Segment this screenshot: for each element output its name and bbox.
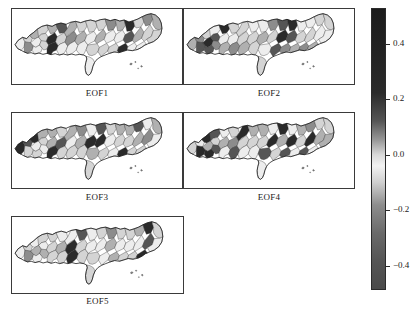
panel-label-eof3: EOF3	[11, 192, 183, 202]
map-subregion	[142, 118, 153, 130]
map-island	[130, 272, 133, 274]
map-subregion	[270, 43, 281, 56]
colorbar-tick-label: −0.2	[393, 204, 409, 214]
map-subregion	[86, 228, 98, 240]
map-subregion	[127, 147, 137, 155]
panel-label-eof1: EOF1	[11, 88, 183, 98]
map-subregion	[98, 43, 109, 56]
map-island	[138, 277, 139, 278]
map-subregion	[115, 238, 126, 252]
map-subregion	[85, 31, 97, 45]
map-subregion	[314, 118, 325, 130]
map-subregion	[258, 44, 271, 56]
map-subregion	[123, 135, 134, 148]
map-subregion	[124, 239, 135, 252]
map-subregion	[114, 134, 125, 147]
map-island	[140, 65, 142, 67]
colorbar-gradient	[372, 9, 385, 289]
map-subregion	[307, 41, 318, 49]
map-island	[307, 61, 309, 62]
map-island	[310, 68, 311, 69]
eof-map-eof3	[12, 113, 182, 188]
eof-map-eof5	[12, 217, 183, 293]
map-subregion	[86, 148, 99, 160]
map-subregion	[280, 43, 291, 53]
map-subregion	[85, 240, 97, 254]
panel-label-eof4: EOF4	[183, 192, 355, 202]
panel-label-eof2: EOF2	[183, 88, 355, 98]
map-island	[130, 63, 133, 65]
map-subregion	[314, 14, 325, 26]
map-island	[138, 68, 139, 69]
map-subregion	[257, 20, 269, 32]
map-subregion	[87, 252, 100, 264]
map-subregion	[114, 30, 125, 43]
map-subregion	[295, 135, 306, 148]
map-subregion	[127, 43, 137, 51]
map-area-eof2	[184, 9, 354, 84]
colorbar	[371, 8, 386, 290]
map-subregion	[108, 43, 119, 53]
map-subregion	[258, 148, 271, 160]
map-subregion	[104, 134, 116, 148]
map-subregion	[276, 30, 288, 44]
map-island	[310, 172, 311, 173]
colorbar-tick	[386, 266, 390, 267]
panel-label-eof5: EOF5	[11, 296, 184, 306]
map-subregion	[257, 135, 269, 149]
map-island	[140, 169, 142, 171]
colorbar-tick-label: 0.0	[393, 149, 404, 159]
eof-map-eof1	[12, 9, 182, 84]
map-subregion	[123, 31, 134, 44]
map-subregion	[280, 147, 291, 157]
map-subregion	[86, 44, 99, 56]
map-island	[138, 172, 139, 173]
map-subregion	[299, 43, 309, 51]
map-island	[302, 167, 305, 169]
map-island	[135, 270, 137, 271]
colorbar-tick	[386, 99, 390, 100]
map-island	[141, 274, 143, 276]
map-area-eof4	[184, 113, 354, 188]
map-subregion	[257, 124, 269, 136]
map-area-eof3	[12, 113, 182, 188]
map-subregion	[85, 20, 97, 32]
map-subregion	[276, 134, 288, 148]
map-subregion	[85, 135, 97, 149]
colorbar-tick	[386, 210, 390, 211]
map-subregion	[95, 133, 107, 147]
eof-figure: EOF1EOF2EOF3EOF4EOF50.40.20.0−0.2−0.4	[0, 0, 416, 311]
map-subregion	[295, 31, 306, 44]
map-subregion	[98, 147, 109, 160]
map-subregion	[267, 29, 279, 43]
map-subregion	[85, 124, 97, 136]
map-subregion	[307, 145, 318, 153]
colorbar-tick	[386, 44, 390, 45]
map-island	[312, 169, 314, 171]
map-area-eof5	[12, 217, 183, 293]
map-subregion	[135, 41, 146, 49]
map-island	[302, 63, 305, 65]
map-island	[307, 165, 309, 166]
map-island	[312, 65, 314, 67]
colorbar-tick-label: −0.4	[393, 260, 409, 270]
map-subregion	[142, 14, 153, 26]
map-island	[135, 165, 137, 166]
colorbar-tick	[386, 155, 390, 156]
map-subregion	[95, 29, 107, 43]
map-subregion	[136, 250, 147, 258]
map-subregion	[286, 30, 297, 43]
map-subregion	[143, 222, 154, 234]
map-subregion	[270, 147, 281, 160]
map-subregion	[104, 30, 116, 44]
map-subregion	[128, 251, 138, 259]
map-subregion	[95, 238, 107, 253]
map-island	[130, 167, 133, 169]
eof-map-eof4	[184, 113, 354, 188]
map-subregion	[286, 134, 297, 147]
map-island	[135, 61, 137, 62]
map-subregion	[99, 252, 110, 266]
eof-map-eof2	[184, 9, 354, 84]
map-subregion	[108, 147, 119, 157]
map-subregion	[299, 147, 309, 155]
